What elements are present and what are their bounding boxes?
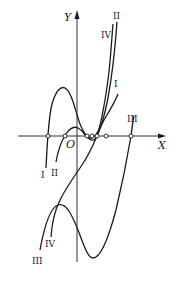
y-axis-arrow-icon <box>75 10 80 19</box>
curve-III-label: III <box>127 114 138 124</box>
origin-label: O <box>66 138 75 151</box>
intercept-point <box>129 134 133 138</box>
x-axis-arrow-icon <box>158 134 166 139</box>
intercept-point <box>95 134 99 138</box>
curve-I-label: I <box>114 79 118 89</box>
function-graph-diagram: Y X O I II III IV IV I II III <box>0 0 176 282</box>
intercept-point <box>63 134 67 138</box>
curve-III-bottom-label: III <box>32 256 43 266</box>
curve-IV-bottom-label: IV <box>45 239 56 249</box>
curve-II-label: II <box>113 11 121 21</box>
intercept-point <box>104 134 108 138</box>
curve-IV-label: IV <box>101 30 112 40</box>
curve-I: I <box>46 79 118 168</box>
y-axis-label: Y <box>64 11 73 24</box>
intercept-point <box>46 134 50 138</box>
intercept-point <box>85 134 89 138</box>
curve-II-bottom-label: II <box>51 168 59 178</box>
x-axis-label: X <box>157 139 167 152</box>
curve-I-bottom-label: I <box>41 170 45 180</box>
curve-IV: IV IV <box>45 24 113 249</box>
intercept-point <box>90 134 94 138</box>
